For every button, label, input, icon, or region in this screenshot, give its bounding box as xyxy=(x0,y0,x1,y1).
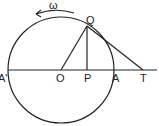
circle-tangent-diagram: ω Q A' O P A T xyxy=(0,0,159,126)
label-P: P xyxy=(84,72,91,84)
tangent-QT xyxy=(87,26,143,70)
label-A: A xyxy=(112,72,120,84)
radius-OQ xyxy=(61,26,87,70)
label-omega: ω xyxy=(49,0,58,11)
label-O: O xyxy=(56,72,65,84)
label-Q: Q xyxy=(86,14,95,26)
label-A-prime: A' xyxy=(0,72,7,84)
label-T: T xyxy=(140,72,147,84)
